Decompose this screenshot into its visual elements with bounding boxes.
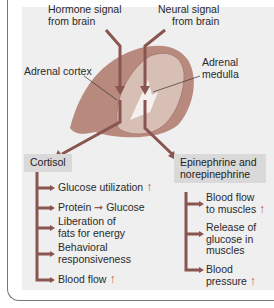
increase-arrow-icon: ↑	[146, 180, 152, 194]
cortisol-effect-blood-flow: Blood flow ↑	[58, 274, 115, 286]
hormone-signal-label: Hormone signalfrom brain	[48, 4, 122, 27]
neural-signal-label: Neural signalfrom brain	[158, 4, 219, 27]
adrenal-cortex-label: Adrenal cortex	[24, 66, 92, 78]
increase-arrow-icon: ↑	[259, 202, 265, 216]
cortisol-effect-fat-liberation: Liberation offats for energy	[58, 216, 125, 239]
conversion-arrow-icon: ➞	[94, 201, 103, 213]
increase-arrow-icon: ↑	[250, 274, 256, 288]
cortisol-effect-protein-glucose: Protein ➞ Glucose	[58, 202, 145, 214]
catecholamines-box: Epinephrine andnorepinephrine	[174, 154, 266, 183]
cortisol-effect-behavioral: Behavioralresponsiveness	[58, 242, 131, 265]
catecholamine-effect-blood-flow-muscles: Blood flowto muscles ↑	[206, 192, 265, 215]
cortisol-effect-glucose-utilization: Glucose utilization ↑	[58, 182, 152, 194]
increase-arrow-icon: ↑	[109, 272, 115, 286]
catecholamine-effect-glucose-release: Release ofglucose inmuscles	[206, 222, 256, 257]
adrenal-medulla-label: Adrenalmedulla	[202, 57, 239, 80]
catecholamine-effect-blood-pressure: Bloodpressure ↑	[206, 264, 256, 287]
cortisol-box: Cortisol	[24, 154, 72, 172]
